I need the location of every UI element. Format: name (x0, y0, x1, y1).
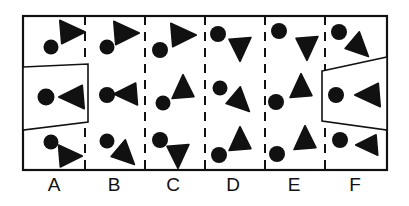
circle-marker (210, 26, 226, 42)
circle-marker (213, 81, 228, 96)
circle-marker (99, 87, 115, 103)
circle-marker (269, 146, 285, 162)
circle-marker (100, 40, 115, 55)
column-label-C: C (153, 175, 193, 195)
circle-marker (100, 134, 115, 149)
circle-marker (152, 42, 168, 58)
circle-marker (152, 132, 168, 148)
column-label-F: F (335, 175, 375, 195)
figure-root: ABCDEF (0, 0, 409, 206)
column-label-A: A (34, 175, 74, 195)
circle-marker (44, 40, 59, 55)
column-label-D: D (213, 175, 253, 195)
column-label-B: B (94, 175, 134, 195)
circle-marker (44, 135, 59, 150)
circle-marker (271, 23, 287, 39)
circle-marker (211, 147, 227, 163)
column-label-E: E (274, 175, 314, 195)
circle-marker (156, 96, 171, 111)
circle-marker (268, 94, 284, 110)
circle-marker (332, 132, 348, 148)
circle-marker (38, 89, 55, 106)
circle-marker (331, 24, 347, 40)
circle-marker (328, 87, 344, 103)
